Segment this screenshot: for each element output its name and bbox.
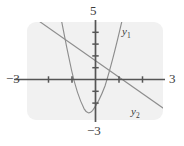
axis-label-left: −3 xyxy=(6,72,20,85)
curve-label-y1: y1 xyxy=(122,26,131,40)
axis-label-right: 3 xyxy=(169,72,176,85)
curve-label-y1-sub: 1 xyxy=(127,31,131,40)
curve-label-y2: y2 xyxy=(131,106,140,120)
graph-figure: 5 −3 3 −3 y1 y2 xyxy=(0,0,184,146)
axis-label-bottom: −3 xyxy=(87,124,101,137)
axis-label-top: 5 xyxy=(90,4,97,17)
curve-label-y2-sub: 2 xyxy=(136,111,140,120)
curve-y1 xyxy=(62,21,122,113)
